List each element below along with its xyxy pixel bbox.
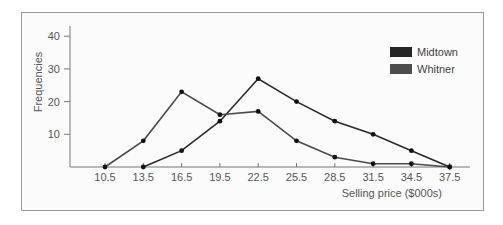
series-line-whitner	[105, 92, 450, 167]
data-point	[294, 138, 299, 143]
data-point	[371, 132, 376, 137]
x-tick-label: 25.5	[286, 171, 307, 183]
x-ticks: 10.513.516.519.522.525.528.531.534.537.5	[94, 163, 460, 183]
data-point	[447, 165, 452, 170]
legend: Midtown Whitner	[390, 46, 458, 75]
x-tick-label: 19.5	[209, 171, 230, 183]
data-point	[141, 165, 146, 170]
series-lines	[103, 76, 453, 169]
x-tick-label: 31.5	[362, 171, 383, 183]
data-point	[294, 99, 299, 104]
x-tick-label: 13.5	[133, 171, 154, 183]
data-point	[179, 89, 184, 94]
y-axis-title: Frequencies	[32, 51, 44, 112]
x-axis-title: Selling price ($000s)	[342, 187, 442, 199]
x-tick-label: 37.5	[439, 171, 460, 183]
data-point	[103, 165, 108, 170]
y-tick-label: 10	[48, 128, 60, 140]
y-tick-label: 30	[48, 63, 60, 75]
legend-swatch-whitner	[390, 64, 412, 74]
y-ticks: 10203040	[48, 30, 70, 140]
x-tick-label: 22.5	[247, 171, 268, 183]
x-tick-label: 28.5	[324, 171, 345, 183]
data-point	[371, 161, 376, 166]
series-line-midtown	[143, 79, 449, 167]
data-point	[332, 155, 337, 160]
data-point	[256, 76, 261, 81]
legend-swatch-midtown	[390, 47, 412, 57]
y-tick-label: 20	[48, 96, 60, 108]
legend-label-whitner: Whitner	[417, 63, 455, 75]
data-point	[218, 112, 223, 117]
y-tick-label: 40	[48, 30, 60, 42]
frequency-polygon-chart: 10203040 10.513.516.519.522.525.528.531.…	[0, 0, 503, 225]
data-point	[409, 148, 414, 153]
legend-label-midtown: Midtown	[417, 46, 458, 58]
x-tick-label: 16.5	[171, 171, 192, 183]
data-point	[256, 109, 261, 114]
data-point	[179, 148, 184, 153]
x-tick-label: 34.5	[401, 171, 422, 183]
data-point	[141, 138, 146, 143]
data-point	[332, 119, 337, 124]
data-point	[218, 119, 223, 124]
data-point	[409, 161, 414, 166]
x-tick-label: 10.5	[94, 171, 115, 183]
